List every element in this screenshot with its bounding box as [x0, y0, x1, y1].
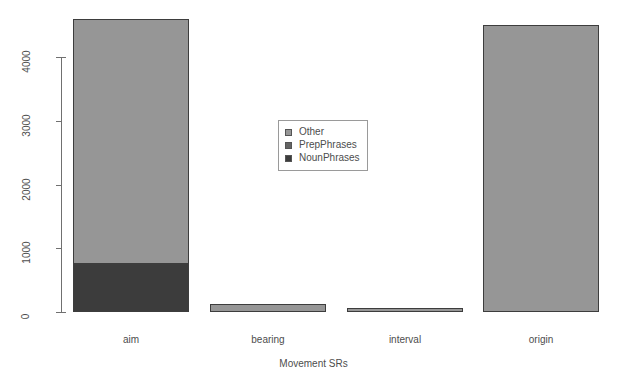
- legend-swatch-prepphrases: [285, 142, 292, 149]
- legend-label-other: Other: [299, 127, 324, 137]
- legend-label-nounphrases: NounPhrases: [299, 153, 360, 163]
- bar-segment-aim-nounphrases: [73, 264, 189, 312]
- legend-swatch-nounphrases: [285, 155, 292, 162]
- legend-item-nounphrases[interactable]: NounPhrases: [285, 152, 360, 164]
- bar-segment-origin-other: [483, 25, 599, 312]
- x-label-interval: interval: [347, 334, 463, 345]
- x-axis-title: Movement SRs: [0, 358, 627, 369]
- bar-chart: 01000200030004000 aimbearingintervalorig…: [0, 0, 627, 384]
- plot-area: [0, 0, 627, 384]
- x-label-origin: origin: [483, 334, 599, 345]
- legend-swatch-other: [285, 129, 292, 136]
- legend-item-prepphrases[interactable]: PrepPhrases: [285, 139, 360, 151]
- x-label-bearing: bearing: [210, 334, 326, 345]
- legend: Other PrepPhrases NounPhrases: [278, 120, 368, 171]
- bar-segment-bearing-other: [210, 304, 326, 312]
- bar-segment-aim-other: [73, 19, 189, 264]
- legend-label-prepphrases: PrepPhrases: [299, 140, 357, 150]
- bar-segment-interval-other: [347, 308, 463, 312]
- legend-item-other[interactable]: Other: [285, 126, 360, 138]
- x-label-aim: aim: [73, 334, 189, 345]
